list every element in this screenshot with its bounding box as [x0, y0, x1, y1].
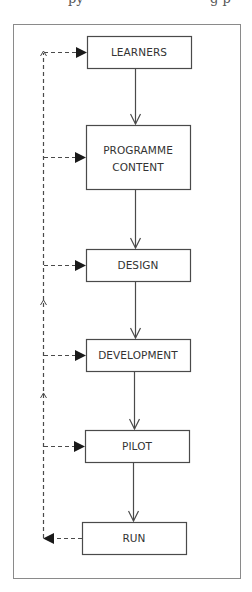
- node-programme-content-label-line2: CONTENT: [112, 161, 164, 173]
- arrowhead-pilot: [74, 441, 85, 452]
- node-development: DEVELOPMENT: [87, 340, 191, 372]
- arrowhead-programme-content: [75, 152, 86, 163]
- node-programme-content-label-line1: PROGRAMME: [103, 144, 173, 156]
- arrowhead-design: [75, 260, 86, 271]
- feedback-flow-diagram: LEARNERS PROGRAMME CONTENT DESIGN DEVELO…: [0, 0, 252, 592]
- node-design-label: DESIGN: [117, 259, 158, 271]
- node-learners: LEARNERS: [88, 37, 192, 69]
- arrowhead-learners: [76, 47, 87, 58]
- node-design: DESIGN: [87, 250, 191, 282]
- node-development-label: DEVELOPMENT: [98, 349, 178, 361]
- node-run-label: RUN: [122, 532, 145, 544]
- node-learners-label: LEARNERS: [111, 46, 167, 58]
- outer-frame: [14, 25, 241, 579]
- arrowhead-run-feedback-origin: [43, 533, 54, 544]
- node-pilot: PILOT: [86, 431, 190, 463]
- arrowhead-development: [75, 350, 86, 361]
- node-programme-content: PROGRAMME CONTENT: [87, 126, 191, 190]
- node-run: RUN: [83, 523, 187, 555]
- node-pilot-label: PILOT: [122, 440, 153, 452]
